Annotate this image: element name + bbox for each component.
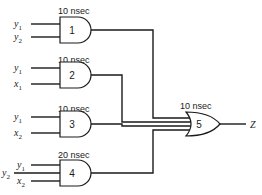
or-gate-5-shape [186, 112, 220, 136]
and-gate-1: 10 nsec 1 y1 y2 [13, 6, 91, 45]
wire-gate2-to-gate5 [91, 75, 192, 122]
gate-4-input-1-label: y1 [16, 159, 25, 173]
and-gate-2-shape [60, 62, 91, 88]
gate-1-delay: 10 nsec [58, 6, 90, 16]
and-gate-4-shape [60, 160, 91, 186]
and-gate-2: 10 nsec 2 y1 x1 [13, 55, 91, 92]
gate-4-input-3-label: x2 [16, 175, 25, 189]
or-gate-5: 10 nsec 5 Z [180, 101, 256, 136]
wire-gate1-to-gate5 [91, 30, 190, 118]
wire-gate4-to-gate5 [91, 130, 190, 173]
gate-2-input-1-label: y1 [13, 62, 22, 76]
gate-5-number: 5 [196, 119, 202, 130]
gate-3-input-1-label: y1 [13, 111, 22, 125]
gate-4-input-2-label: y2 [1, 167, 10, 181]
gate-5-delay: 10 nsec [180, 101, 212, 111]
and-gate-4: 20 nsec 4 y1 y2 x2 [1, 150, 91, 189]
gate-3-input-2-label: x2 [13, 127, 22, 141]
output-label: Z [250, 119, 256, 130]
and-gate-3: 10 nsec 3 y1 x2 [13, 104, 91, 141]
gate-4-delay: 20 nsec [58, 150, 90, 160]
gate-3-number: 3 [69, 119, 75, 130]
and-gate-1-shape [60, 17, 91, 43]
gate-2-input-2-label: x1 [13, 78, 22, 92]
and-gate-3-shape [60, 111, 91, 137]
gate-1-input-1-label: y1 [13, 18, 22, 32]
logic-circuit-diagram: 10 nsec 1 y1 y2 10 nsec 2 y1 x1 10 nsec … [0, 0, 262, 195]
gate-4-number: 4 [69, 168, 75, 179]
wire-gate3-to-gate5 [91, 124, 192, 126]
gate-2-number: 2 [69, 70, 75, 81]
gate-1-number: 1 [69, 25, 75, 36]
gate-1-input-2-label: y2 [13, 31, 22, 45]
